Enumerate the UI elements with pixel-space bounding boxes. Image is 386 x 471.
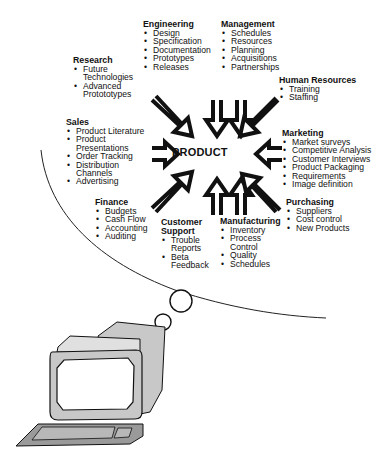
group-customer-support: Customer Support Trouble Reports Beta Fe…: [161, 218, 211, 270]
list-item: Image definition: [282, 180, 371, 188]
group-research: Research Future Technologies Advanced Pr…: [73, 56, 143, 99]
list-item: New Products: [286, 224, 350, 232]
list-item: Distribution Channels: [66, 161, 150, 178]
list-item: Partnerships: [221, 63, 279, 71]
list-item: Releases: [143, 63, 211, 71]
group-purchasing: Purchasing Suppliers Cost control New Pr…: [286, 198, 350, 232]
list-item: Future Technologies: [73, 65, 143, 82]
computer-screen: [57, 358, 134, 410]
group-finance: Finance Budgets Cash Flow Accounting Aud…: [95, 198, 148, 241]
list-item: Advertising: [66, 177, 150, 185]
group-title: Customer Support: [161, 218, 211, 236]
list-item: Trouble Reports: [161, 236, 211, 253]
group-management: Management Schedules Resources Planning …: [221, 20, 279, 71]
group-sales: Sales Product Literature Product Present…: [66, 118, 150, 186]
list-item: Staffing: [279, 93, 356, 101]
list-item: Auditing: [95, 232, 148, 240]
list-item: Product Presentations: [66, 135, 150, 152]
center-label-product: PRODUCT: [172, 146, 228, 158]
list-item: Advanced Protototypes: [73, 82, 143, 99]
group-human-resources: Human Resources Training Staffing: [279, 76, 356, 102]
thought-bubble-large: [170, 290, 192, 312]
group-manufacturing: Manufacturing Inventory Process Control …: [220, 217, 280, 268]
group-engineering: Engineering Design Specification Documen…: [143, 20, 211, 71]
list-item: Schedules: [220, 260, 280, 268]
computer-icon: [16, 322, 165, 446]
group-marketing: Marketing Market surveys Competitive Ana…: [282, 129, 371, 188]
list-item: Beta Feedback: [161, 253, 211, 270]
list-item: Process Control: [220, 234, 280, 251]
